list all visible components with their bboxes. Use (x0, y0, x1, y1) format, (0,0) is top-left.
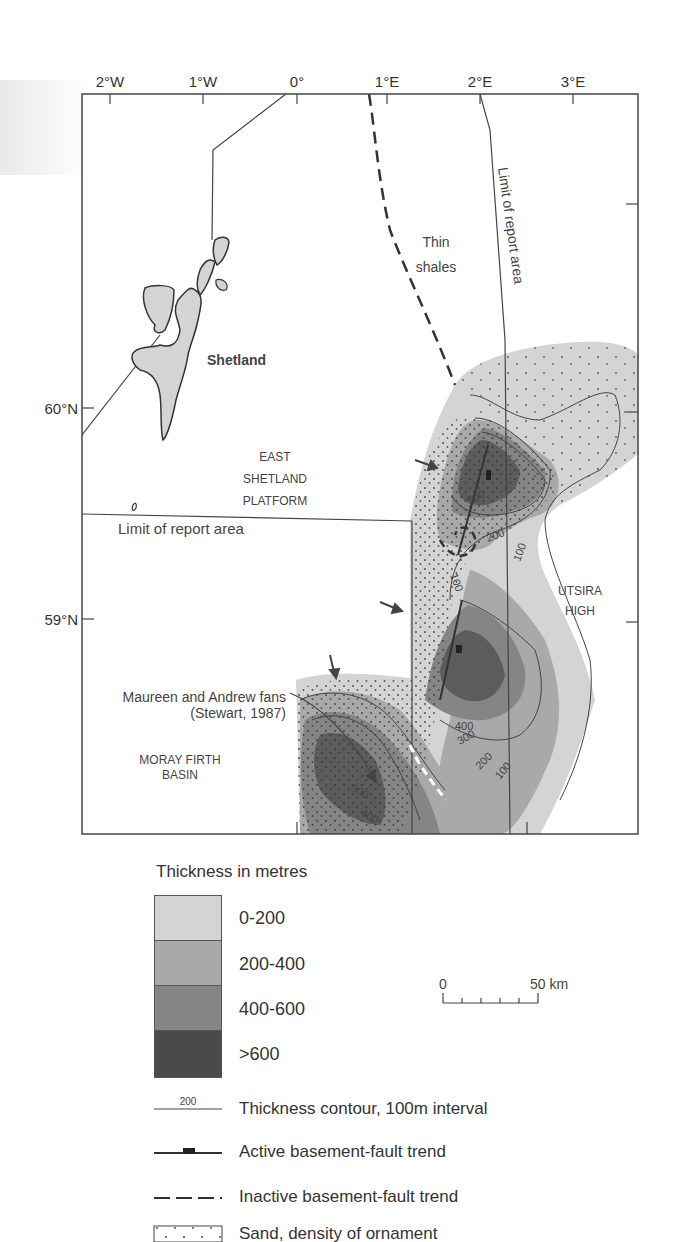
active-fault-marker (486, 470, 491, 480)
east-shetland-label: EAST (259, 450, 291, 464)
fair-isle (132, 503, 136, 510)
thin-shales-label: Thin (422, 234, 449, 250)
scale-start: 0 (439, 976, 447, 992)
east-shetland-label: SHETLAND (243, 472, 307, 486)
thickness-map: 2°W 1°W 0° 1°E 2°E 3°E 60°N 59°N (0, 0, 674, 1242)
legend-swatch-400-600 (154, 985, 222, 1031)
latitude-axis: 60°N 59°N (44, 400, 78, 628)
boundary-line-north (212, 94, 286, 240)
shetland-small-isle (216, 280, 227, 291)
lon-tick-label: 0° (290, 73, 304, 90)
legend-symbol-label: Active basement-fault trend (239, 1142, 446, 1162)
scale-bar (443, 993, 538, 1003)
lon-tick-label: 1°W (189, 73, 218, 90)
legend-label: 0-200 (239, 908, 285, 929)
legend-symbol-label: Thickness contour, 100m interval (239, 1099, 488, 1119)
longitude-axis: 2°W 1°W 0° 1°E 2°E 3°E (96, 73, 585, 90)
active-fault-marker (456, 645, 462, 653)
shetland-island-west (143, 286, 174, 333)
legend-symbol-label: Inactive basement-fault trend (239, 1187, 458, 1207)
legend-swatch-600-plus (154, 1030, 222, 1078)
shetland-island-unst (213, 237, 229, 265)
legend-swatch-200-400 (154, 940, 222, 986)
maureen-andrew-label: (Stewart, 1987) (190, 705, 286, 721)
legend-title: Thickness in metres (156, 862, 307, 882)
utsira-high-label: HIGH (565, 604, 595, 618)
sand-symbol (154, 1226, 222, 1242)
legend-label: >600 (239, 1044, 280, 1065)
shetland-island-north (197, 260, 215, 295)
moray-firth-label: BASIN (162, 768, 198, 782)
limit-report-area-label: Limit of report area (118, 520, 245, 537)
contour-symbol-sample: 200 (180, 1096, 197, 1107)
lon-tick-label: 2°E (468, 73, 492, 90)
maureen-andrew-label: Maureen and Andrew fans (123, 689, 286, 705)
legend-label: 200-400 (239, 954, 305, 975)
moray-firth-label: MORAY FIRTH (139, 753, 220, 767)
lon-tick-label: 3°E (561, 73, 585, 90)
active-fault-symbol-marker (183, 1148, 195, 1154)
shetland-label: Shetland (207, 352, 266, 368)
legend-symbol-label: Sand, density of ornament (239, 1224, 437, 1242)
lon-tick-label: 1°E (375, 73, 399, 90)
east-shetland-label: PLATFORM (243, 494, 307, 508)
thin-shales-label: shales (416, 259, 456, 275)
legend-swatch-0-200 (154, 895, 222, 941)
legend-label: 400-600 (239, 999, 305, 1020)
scale-end: 50 km (530, 976, 568, 992)
lat-tick-label: 59°N (44, 611, 78, 628)
lon-tick-label: 2°W (96, 73, 125, 90)
lat-tick-label: 60°N (44, 400, 78, 417)
utsira-high-label: UTSIRA (558, 584, 602, 598)
